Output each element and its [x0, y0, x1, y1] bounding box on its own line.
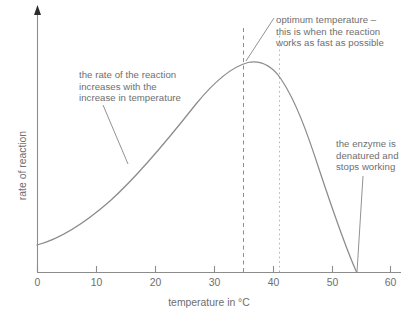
x-tick-label-10: 10 [84, 277, 110, 288]
optimum-temperature-annotation: optimum temperature – this is when the r… [276, 14, 384, 49]
x-tick-label-60: 60 [378, 277, 404, 288]
x-tick-label-20: 20 [143, 277, 169, 288]
x-axis-ticks [38, 266, 391, 273]
y-axis [34, 5, 41, 272]
y-axis-title: rate of reaction [17, 96, 28, 236]
x-tick-label-50: 50 [320, 277, 346, 288]
x-axis-title: temperature in °C [0, 297, 418, 308]
enzyme-rate-temperature-chart: the rate of the reaction increases with … [0, 0, 418, 321]
rate-increases-leader-line [103, 105, 128, 164]
x-tick-label-0: 0 [25, 277, 51, 288]
enzyme-denatured-leader-line [357, 176, 363, 272]
x-axis [37, 266, 401, 273]
x-tick-label-30: 30 [202, 277, 228, 288]
rate-increases-annotation: the rate of the reaction increases with … [79, 69, 181, 104]
enzyme-denatured-annotation: the enzyme is denatured and stops workin… [336, 138, 399, 173]
x-tick-label-40: 40 [261, 277, 287, 288]
optimum-temperature-leader-line [246, 18, 274, 61]
